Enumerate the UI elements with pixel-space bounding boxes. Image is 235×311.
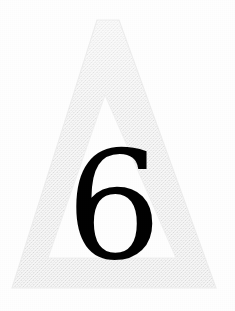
triangle-band (0, 0, 235, 311)
triangle-outline-icon (0, 0, 235, 311)
scanned-page: 6 (0, 0, 235, 311)
triangle-figure (0, 0, 235, 311)
